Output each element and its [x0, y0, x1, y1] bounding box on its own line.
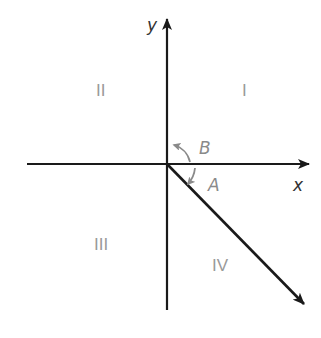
angle-a-arc	[188, 168, 195, 184]
x-axis-label: x	[292, 175, 304, 195]
angle-b-label: B	[199, 138, 211, 158]
quadrant-iv-label: IV	[212, 256, 229, 275]
quadrant-ii-label: II	[96, 81, 105, 100]
quadrant-iii-label: III	[94, 235, 108, 254]
angle-a-label: A	[207, 175, 220, 195]
coordinate-diagram: y x I II III IV B A	[0, 0, 321, 338]
angle-b-arc	[174, 145, 190, 162]
y-axis-label: y	[146, 15, 158, 35]
quadrant-i-label: I	[242, 81, 247, 100]
terminal-ray	[167, 164, 304, 304]
